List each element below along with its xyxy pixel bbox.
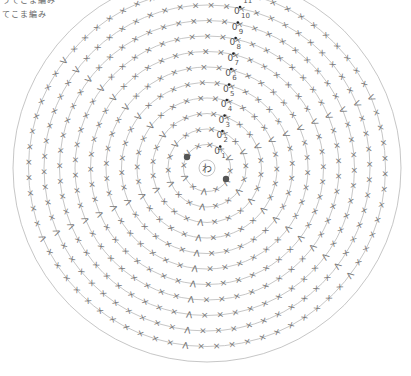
increase-stitch: V [269, 214, 281, 226]
round-number: 5 [230, 90, 234, 98]
slip-stitch-dot [230, 68, 233, 71]
single-crochet-stitch: × [191, 0, 199, 11]
single-crochet-stitch: × [367, 229, 379, 240]
single-crochet-stitch: × [115, 215, 127, 227]
single-crochet-stitch: × [27, 204, 38, 214]
single-crochet-stitch: × [107, 313, 119, 325]
single-crochet-stitch: × [178, 161, 189, 170]
increase-stitch: V [108, 202, 120, 212]
increase-stitch: V [158, 129, 170, 141]
single-crochet-stitch: × [283, 188, 295, 198]
single-crochet-stitch: × [378, 138, 389, 147]
single-crochet-stitch: × [88, 134, 100, 144]
single-crochet-stitch: × [154, 90, 166, 102]
single-crochet-stitch: × [347, 234, 359, 245]
single-crochet-stitch: × [346, 135, 357, 144]
single-crochet-stitch: × [207, 0, 215, 10]
single-crochet-stitch: × [206, 264, 214, 274]
single-crochet-stitch: × [246, 286, 256, 298]
single-crochet-stitch: × [360, 243, 372, 254]
single-crochet-stitch: × [24, 142, 35, 151]
increase-stitch: V [281, 223, 293, 235]
round-number: 3 [226, 121, 230, 129]
single-crochet-stitch: × [273, 253, 285, 266]
single-crochet-stitch: × [129, 51, 141, 63]
increase-stitch: V [94, 208, 106, 218]
slip-stitch-dot [221, 130, 224, 133]
single-crochet-stitch: × [247, 38, 258, 50]
round-number: 4 [228, 105, 233, 113]
increase-stitch: V [196, 217, 204, 228]
single-crochet-stitch: × [205, 139, 214, 150]
single-crochet-stitch: × [232, 291, 242, 302]
single-crochet-stitch: × [216, 310, 224, 321]
single-crochet-stitch: × [129, 33, 140, 45]
single-crochet-stitch: × [380, 154, 390, 162]
single-crochet-stitch: × [137, 133, 149, 144]
single-crochet-stitch: × [67, 100, 79, 111]
single-crochet-stitch: × [345, 196, 356, 206]
single-crochet-stitch: × [99, 105, 111, 116]
single-crochet-stitch: × [217, 47, 226, 58]
single-crochet-stitch: × [344, 84, 356, 95]
single-crochet-stitch: × [85, 165, 95, 173]
single-crochet-stitch: × [277, 201, 289, 212]
single-crochet-stitch: × [264, 192, 276, 203]
single-crochet-stitch: × [176, 2, 185, 13]
single-crochet-stitch: × [248, 233, 260, 245]
single-crochet-stitch: × [204, 31, 212, 41]
single-crochet-stitch: × [261, 44, 272, 56]
single-crochet-stitch: × [158, 21, 168, 33]
single-crochet-stitch: × [154, 302, 164, 314]
slip-stitch-dot [219, 145, 222, 148]
round-number: 7 [234, 59, 238, 67]
single-crochet-stitch: × [340, 247, 352, 259]
single-crochet-stitch: × [201, 310, 209, 320]
single-crochet-stitch: × [358, 78, 370, 89]
single-crochet-stitch: × [336, 71, 349, 83]
single-crochet-stitch: × [327, 58, 340, 70]
single-crochet-stitch: × [259, 298, 270, 310]
single-crochet-stitch: × [190, 16, 198, 27]
single-crochet-stitch: × [252, 183, 264, 194]
single-crochet-stitch: × [41, 136, 52, 145]
single-crochet-stitch: × [213, 341, 221, 351]
single-crochet-stitch: × [123, 305, 134, 317]
single-crochet-stitch: × [24, 174, 34, 182]
single-crochet-stitch: × [364, 176, 375, 184]
single-crochet-stitch: × [167, 119, 179, 132]
single-crochet-stitch: × [23, 158, 33, 166]
single-crochet-stitch: × [142, 80, 154, 93]
single-crochet-stitch: × [150, 230, 162, 243]
slip-stitch-dot [228, 83, 231, 86]
single-crochet-stitch: × [44, 121, 56, 131]
single-crochet-stitch: × [142, 62, 154, 74]
single-crochet-stitch: × [233, 274, 243, 286]
single-crochet-stitch: × [247, 269, 258, 281]
increase-stitch: V [120, 101, 132, 113]
single-crochet-stitch: × [241, 162, 251, 170]
single-crochet-stitch: × [348, 181, 359, 190]
single-crochet-stitch: × [39, 168, 49, 176]
stitch-marker [223, 176, 229, 182]
single-crochet-stitch: × [270, 179, 281, 189]
single-crochet-stitch: × [234, 258, 244, 270]
increase-stitch: V [306, 242, 318, 254]
single-crochet-stitch: × [193, 124, 203, 135]
single-crochet-stitch: × [51, 260, 63, 272]
single-crochet-stitch: × [271, 69, 283, 82]
single-crochet-stitch: × [354, 220, 366, 231]
single-crochet-stitch: × [211, 184, 222, 196]
single-crochet-stitch: × [350, 65, 362, 77]
single-crochet-stitch: × [125, 124, 137, 135]
single-crochet-stitch: × [130, 15, 141, 27]
single-crochet-stitch: × [317, 147, 328, 156]
single-crochet-stitch: × [342, 119, 354, 129]
increase-stitch: V [179, 172, 191, 182]
single-crochet-stitch: × [133, 148, 144, 158]
single-crochet-stitch: × [328, 126, 340, 136]
single-crochet-stitch: × [167, 101, 178, 113]
single-crochet-stitch: × [112, 280, 124, 293]
single-crochet-stitch: × [317, 178, 328, 187]
single-crochet-stitch: × [361, 129, 372, 138]
